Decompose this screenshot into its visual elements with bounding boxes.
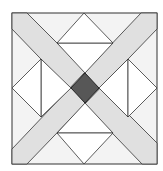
quilt-block-diagram: [0, 0, 163, 171]
